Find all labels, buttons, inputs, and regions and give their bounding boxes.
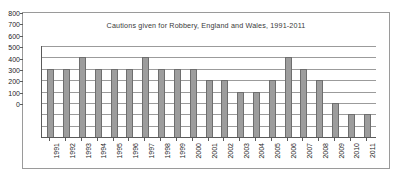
bar-slot — [185, 46, 201, 137]
y-axis-tick — [20, 59, 23, 60]
x-axis-tick-slot — [342, 137, 358, 141]
bar-slot — [343, 46, 359, 137]
bar-slot — [359, 46, 375, 137]
bar-slot — [296, 46, 312, 137]
x-axis-label-slot: 2001 — [200, 142, 216, 172]
x-axis-tick-slot — [169, 137, 185, 141]
x-axis-tick-slot — [232, 137, 248, 141]
y-axis-tick — [20, 24, 23, 25]
x-axis-tick — [223, 137, 224, 141]
x-axis-tick-slot — [105, 137, 121, 141]
x-axis-tick — [97, 137, 98, 141]
y-axis-tick-label: 800 — [8, 10, 20, 17]
x-axis-label-slot: 1999 — [169, 142, 185, 172]
bar — [111, 69, 118, 137]
bar-slot — [90, 46, 106, 137]
bar — [126, 69, 133, 137]
x-axis-tick — [128, 137, 129, 141]
x-axis-tick — [160, 137, 161, 141]
x-axis-tick — [65, 137, 66, 141]
x-axis-tick — [255, 137, 256, 141]
y-axis-tick — [20, 104, 23, 105]
y-axis-tick — [20, 81, 23, 82]
x-axis-tick-slot — [327, 137, 343, 141]
x-axis-tick — [318, 137, 319, 141]
x-axis-tick — [176, 137, 177, 141]
y-axis-tick — [20, 70, 23, 71]
x-axis-tick-slot — [58, 137, 74, 141]
x-axis-tick — [287, 137, 288, 141]
x-axis-tick-slot — [279, 137, 295, 141]
x-axis-tick-slot — [74, 137, 90, 141]
x-axis-tick-slot — [216, 137, 232, 141]
bar — [206, 80, 213, 137]
chart-title: Cautions given for Robbery, England and … — [23, 21, 389, 30]
bar — [237, 92, 244, 138]
bar-slot — [280, 46, 296, 137]
bar-slot — [328, 46, 344, 137]
bar-slot — [217, 46, 233, 137]
x-axis-tick-slot — [137, 137, 153, 141]
x-axis-label-slot: 1992 — [58, 142, 74, 172]
bar — [158, 69, 165, 137]
bar-slot — [264, 46, 280, 137]
x-axis-tick-slot — [263, 137, 279, 141]
bar — [316, 80, 323, 137]
bar — [47, 69, 54, 137]
x-axis-tick-slot — [121, 137, 137, 141]
bar-slot — [312, 46, 328, 137]
x-axis-tick — [208, 137, 209, 141]
y-axis-tick — [20, 36, 23, 37]
bar — [174, 69, 181, 137]
bar-series — [42, 46, 376, 137]
y-axis-tick-label: 100 — [8, 89, 20, 96]
y-axis-tick — [20, 47, 23, 48]
x-axis-tick-label: 2011 — [369, 143, 376, 158]
x-axis-tick-slot — [358, 137, 374, 141]
x-axis-label-slot: 1995 — [105, 142, 121, 172]
x-axis-label-slot: 1991 — [42, 142, 58, 172]
x-axis-tick-slot — [200, 137, 216, 141]
x-axis-label-slot: 2002 — [216, 142, 232, 172]
bar — [142, 57, 149, 137]
y-axis-tick-label: 600 — [8, 32, 20, 39]
x-axis-tick-slot — [295, 137, 311, 141]
bar-slot — [59, 46, 75, 137]
x-axis-tick — [239, 137, 240, 141]
y-axis-tick-label: 400 — [8, 55, 20, 62]
x-axis-label-slot: 2009 — [327, 142, 343, 172]
bar — [190, 69, 197, 137]
plot-wrapper — [41, 46, 375, 137]
y-axis-tick-label: 200 — [8, 78, 20, 85]
x-axis-tick-slot — [248, 137, 264, 141]
x-axis-tick — [334, 137, 335, 141]
x-axis-labels: 1991199219931994199519961997199819992000… — [41, 142, 375, 172]
x-axis-tick — [366, 137, 367, 141]
bar — [269, 80, 276, 137]
x-axis-tick-slot — [153, 137, 169, 141]
bar — [63, 69, 70, 137]
y-axis-tick-label: 500 — [8, 44, 20, 51]
bar-slot — [43, 46, 59, 137]
x-axis-ticks — [41, 137, 375, 141]
x-axis-label-slot: 1996 — [121, 142, 137, 172]
x-axis-label-slot: 2005 — [263, 142, 279, 172]
y-axis-ticks — [20, 13, 23, 104]
bar-slot — [75, 46, 91, 137]
bar — [285, 57, 292, 137]
bar-slot — [122, 46, 138, 137]
x-axis-label-slot: 2011 — [358, 142, 374, 172]
x-axis-tick-slot — [184, 137, 200, 141]
x-axis-label-slot: 1994 — [89, 142, 105, 172]
bar-slot — [138, 46, 154, 137]
x-axis-label-slot: 2007 — [295, 142, 311, 172]
bar — [332, 103, 339, 137]
bar-slot — [154, 46, 170, 137]
x-axis-tick — [192, 137, 193, 141]
x-axis-label-slot: 2008 — [311, 142, 327, 172]
bar — [253, 92, 260, 138]
x-axis-label-slot: 2010 — [342, 142, 358, 172]
x-axis-tick — [113, 137, 114, 141]
x-axis-tick-slot — [42, 137, 58, 141]
x-axis-label-slot: 1993 — [74, 142, 90, 172]
